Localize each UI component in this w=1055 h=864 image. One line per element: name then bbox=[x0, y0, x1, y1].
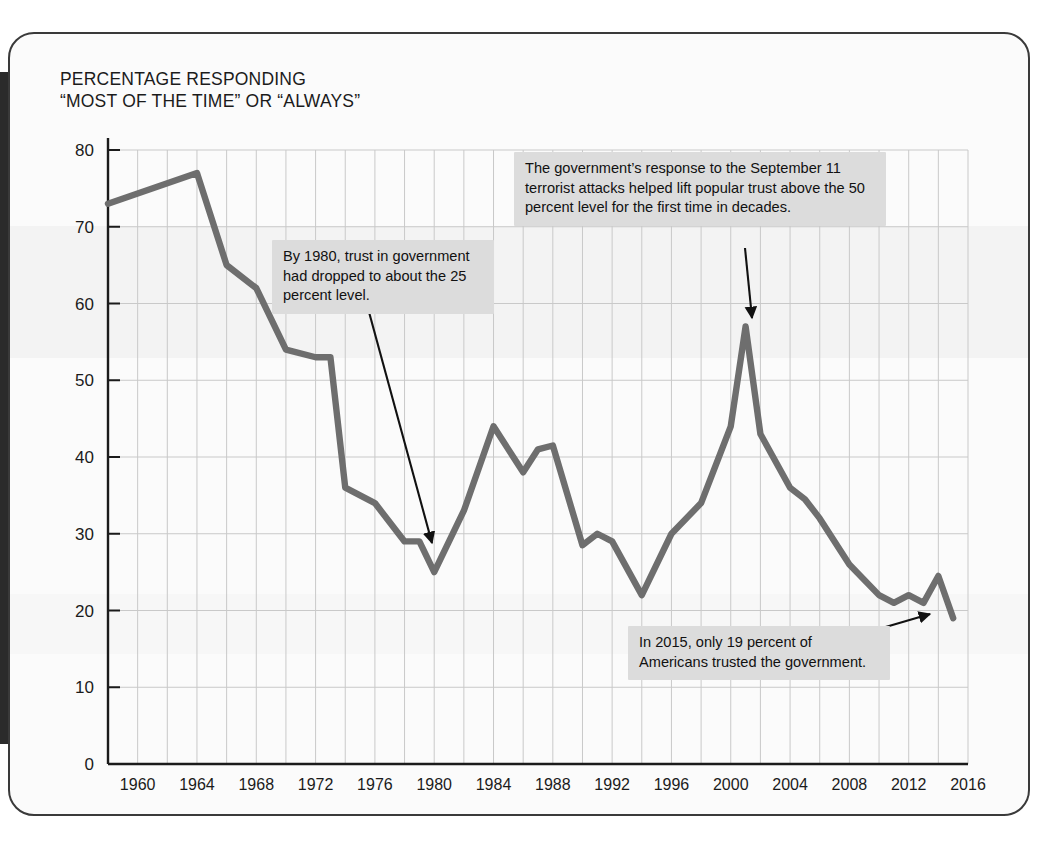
svg-text:1984: 1984 bbox=[476, 776, 512, 793]
svg-text:0: 0 bbox=[85, 755, 94, 774]
svg-text:80: 80 bbox=[75, 141, 94, 160]
svg-text:1996: 1996 bbox=[654, 776, 690, 793]
svg-text:2008: 2008 bbox=[832, 776, 868, 793]
x-axis-tick-labels: 1960196419681972197619801984198819921996… bbox=[120, 776, 986, 793]
svg-text:20: 20 bbox=[75, 602, 94, 621]
svg-text:2000: 2000 bbox=[713, 776, 749, 793]
arrow-2001 bbox=[745, 248, 752, 318]
svg-text:1976: 1976 bbox=[357, 776, 393, 793]
svg-text:2016: 2016 bbox=[950, 776, 986, 793]
annotation-2001: The government’s response to the Septemb… bbox=[514, 152, 886, 226]
svg-text:50: 50 bbox=[75, 371, 94, 390]
svg-text:60: 60 bbox=[75, 295, 94, 314]
data-line-trust bbox=[108, 173, 953, 618]
svg-text:40: 40 bbox=[75, 448, 94, 467]
svg-text:2004: 2004 bbox=[772, 776, 808, 793]
svg-text:1964: 1964 bbox=[179, 776, 215, 793]
annotation-2015: In 2015, only 19 percent of Americans tr… bbox=[628, 626, 890, 680]
svg-text:10: 10 bbox=[75, 678, 94, 697]
annotation-1980: By 1980, trust in government had dropped… bbox=[272, 240, 494, 314]
chart-area: 01020304050607080 1960196419681972197619… bbox=[0, 0, 1055, 864]
svg-text:70: 70 bbox=[75, 218, 94, 237]
svg-text:2012: 2012 bbox=[891, 776, 927, 793]
svg-text:1972: 1972 bbox=[298, 776, 334, 793]
y-axis-tick-labels: 01020304050607080 bbox=[75, 141, 94, 774]
trust-in-government-line-chart: 01020304050607080 1960196419681972197619… bbox=[0, 0, 1055, 864]
svg-text:1960: 1960 bbox=[120, 776, 156, 793]
svg-text:1980: 1980 bbox=[416, 776, 452, 793]
svg-text:30: 30 bbox=[75, 525, 94, 544]
svg-text:1968: 1968 bbox=[238, 776, 274, 793]
svg-text:1988: 1988 bbox=[535, 776, 571, 793]
svg-text:1992: 1992 bbox=[594, 776, 630, 793]
